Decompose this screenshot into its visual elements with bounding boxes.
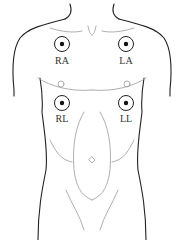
clavicle-left (50, 28, 82, 32)
torso-left-side (38, 78, 47, 240)
neck-right-outline (113, 4, 119, 19)
pectoral-left (38, 78, 92, 90)
clavicle-right (102, 28, 134, 32)
torso-right-side (137, 78, 146, 240)
abdominal-right (92, 112, 111, 200)
electrode-label-ll: LL (114, 113, 138, 124)
inguinal-right (100, 190, 118, 230)
oblique-left (50, 140, 72, 162)
electrode-rl (55, 96, 70, 111)
nipple-left (58, 81, 64, 87)
abdominal-left (73, 112, 92, 200)
navel-icon (89, 157, 95, 163)
pectoral-right (92, 78, 146, 90)
nipple-right (124, 81, 130, 87)
electrode-label-la: LA (114, 55, 138, 66)
electrode-ra (55, 37, 70, 52)
torso-diagram (0, 0, 184, 240)
sternal-notch (88, 26, 96, 35)
electrode-la (119, 37, 134, 52)
neck-left-outline (65, 4, 71, 19)
oblique-right (112, 140, 134, 162)
electrode-ll (119, 96, 134, 111)
inguinal-left (66, 190, 84, 230)
electrode-label-ra: RA (50, 55, 74, 66)
electrode-label-rl: RL (50, 113, 74, 124)
